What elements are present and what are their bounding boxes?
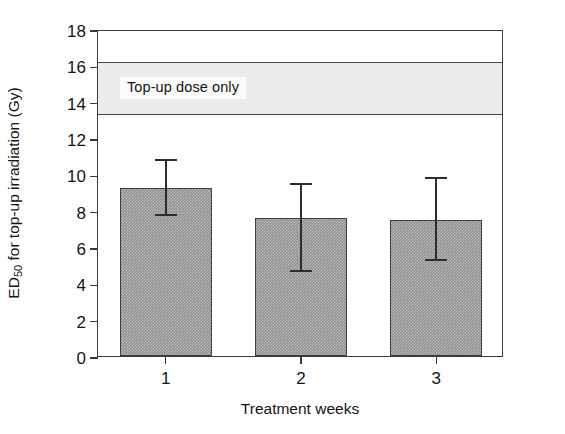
y-axis-tick-label: 10 [67, 168, 86, 185]
error-bar-lower-cap [290, 270, 312, 272]
y-axis-tick-mark [90, 30, 98, 32]
y-axis-tick-mark [90, 212, 98, 214]
error-bar [120, 29, 212, 356]
y-axis-tick-mark [90, 139, 98, 141]
y-axis-tick-mark [90, 176, 98, 178]
y-axis-tick-label: 18 [67, 23, 86, 40]
y-axis-tick-mark [90, 357, 98, 359]
error-bar-lower-cap [155, 214, 177, 216]
y-axis-title-subscript: 50 [12, 265, 24, 277]
y-axis-tick-mark [90, 248, 98, 250]
error-bar [390, 29, 482, 356]
y-axis-tick-label: 12 [67, 132, 86, 149]
error-bar-upper-cap [290, 183, 312, 185]
y-axis-tick-label: 6 [77, 241, 86, 258]
error-bar-lower-cap [425, 259, 447, 261]
y-axis-title-suffix: for top-up irradiation (Gy) [5, 87, 22, 264]
y-axis-title: ED50 for top-up irradiation (Gy) [5, 87, 22, 298]
y-axis-tick-label: 0 [77, 350, 86, 367]
error-bar-upper-cap [425, 177, 447, 179]
x-axis-tick-mark [300, 356, 302, 364]
y-axis-title-prefix: ED [5, 277, 22, 299]
y-axis-tick-label: 16 [67, 59, 86, 76]
x-axis-tick-mark [436, 356, 438, 364]
error-bar-stem [435, 177, 437, 261]
y-axis-tick-mark [90, 67, 98, 69]
x-axis-tick-label: 2 [296, 370, 305, 387]
y-axis-tick-label: 8 [77, 204, 86, 221]
x-axis-title: Treatment weeks [241, 400, 359, 417]
plot-area: Top-up dose only 024681012141618 123 [97, 30, 503, 357]
y-axis-tick-label: 14 [67, 95, 86, 112]
error-bar-stem [165, 159, 167, 216]
y-axis-tick-mark [90, 285, 98, 287]
y-axis-tick-mark [90, 103, 98, 105]
error-bar-stem [300, 183, 302, 271]
figure-container: ED50 for top-up irradiation (Gy) Treatme… [0, 0, 565, 434]
error-bar-upper-cap [155, 159, 177, 161]
x-axis-tick-label: 3 [432, 370, 441, 387]
x-axis-tick-mark [165, 356, 167, 364]
y-axis-tick-mark [90, 321, 98, 323]
y-axis-tick-label: 4 [77, 277, 86, 294]
y-axis-tick-label: 2 [77, 313, 86, 330]
error-bar [255, 29, 347, 356]
x-axis-tick-label: 1 [161, 370, 170, 387]
